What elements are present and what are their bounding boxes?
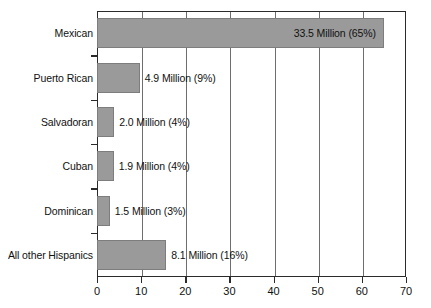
x-axis-tick-label: 70 xyxy=(400,285,412,297)
x-axis-tick-label: 30 xyxy=(223,285,235,297)
bar xyxy=(97,196,110,226)
x-axis-tick-60 xyxy=(362,277,363,283)
category-label: Salvadoran xyxy=(0,116,93,128)
bar-row: 1.5 Million (3%) xyxy=(97,196,406,226)
bar-row: 1.9 Million (4%) xyxy=(97,151,406,181)
x-axis-tick-70 xyxy=(406,277,407,283)
x-axis-tick-50 xyxy=(318,277,319,283)
bar-row: 4.9 Million (9%) xyxy=(97,63,406,93)
bar-value-label: 8.1 Million (16%) xyxy=(171,249,248,261)
bar-value-label: 33.5 Million (65%) xyxy=(294,27,376,39)
bar xyxy=(97,240,166,270)
bar-row: 2.0 Million (4%) xyxy=(97,107,406,137)
x-axis-tick-10 xyxy=(141,277,142,283)
x-axis-tick-20 xyxy=(185,277,186,283)
x-axis-tick-40 xyxy=(274,277,275,283)
bars-layer: 33.5 Million (65%)4.9 Million (9%)2.0 Mi… xyxy=(97,11,406,277)
bar xyxy=(97,63,140,93)
x-axis-tick-0 xyxy=(97,277,98,283)
category-label: Puerto Rican xyxy=(0,72,93,84)
bar-value-label: 1.5 Million (3%) xyxy=(115,205,186,217)
bar-value-label: 1.9 Million (4%) xyxy=(119,160,190,172)
bar-value-label: 4.9 Million (9%) xyxy=(145,72,216,84)
bar-row: 8.1 Million (16%) xyxy=(97,240,406,270)
x-axis-tick-label: 20 xyxy=(179,285,191,297)
x-axis-tick-label: 60 xyxy=(356,285,368,297)
x-axis-tick-label: 50 xyxy=(312,285,324,297)
x-axis-tick-label: 0 xyxy=(94,285,100,297)
x-axis-tick-label: 10 xyxy=(135,285,147,297)
bar-chart: MexicanPuerto RicanSalvadoranCubanDomini… xyxy=(0,0,431,308)
category-label: All other Hispanics xyxy=(0,249,93,261)
bar xyxy=(97,107,114,137)
bar-row: 33.5 Million (65%) xyxy=(97,18,406,48)
category-label: Cuban xyxy=(0,160,93,172)
x-axis-tick-label: 40 xyxy=(267,285,279,297)
category-label: Mexican xyxy=(0,27,93,39)
x-axis-tick-30 xyxy=(229,277,230,283)
y-axis-category-labels: MexicanPuerto RicanSalvadoranCubanDomini… xyxy=(0,0,93,308)
bar xyxy=(97,151,114,181)
category-label: Dominican xyxy=(0,205,93,217)
bar-value-label: 2.0 Million (4%) xyxy=(119,116,190,128)
